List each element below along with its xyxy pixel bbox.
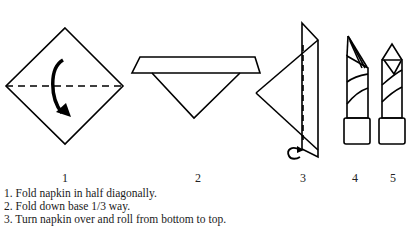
- fold-arrow-icon: [53, 60, 71, 117]
- step-5-rolled-napkin: [379, 44, 405, 144]
- step-number-1: 1: [62, 171, 68, 186]
- step-3-side-triangle: [256, 23, 318, 159]
- instruction-list: 1. Fold napkin in half diagonally. 2. Fo…: [4, 187, 226, 226]
- step-2-folded-triangle: [132, 57, 260, 118]
- step-number-3: 3: [300, 171, 306, 186]
- step-number-2: 2: [195, 171, 201, 186]
- instruction-3: 3. Turn napkin over and roll from bottom…: [4, 213, 226, 226]
- instruction-2: 2. Fold down base 1/3 way.: [4, 200, 226, 213]
- instruction-1: 1. Fold napkin in half diagonally.: [4, 187, 226, 200]
- step-4-rolled-napkin: [344, 36, 370, 144]
- step-number-4: 4: [352, 171, 358, 186]
- napkin-fold-illustration: [0, 0, 408, 170]
- step-1-diamond: [6, 28, 123, 144]
- step-number-5: 5: [390, 171, 396, 186]
